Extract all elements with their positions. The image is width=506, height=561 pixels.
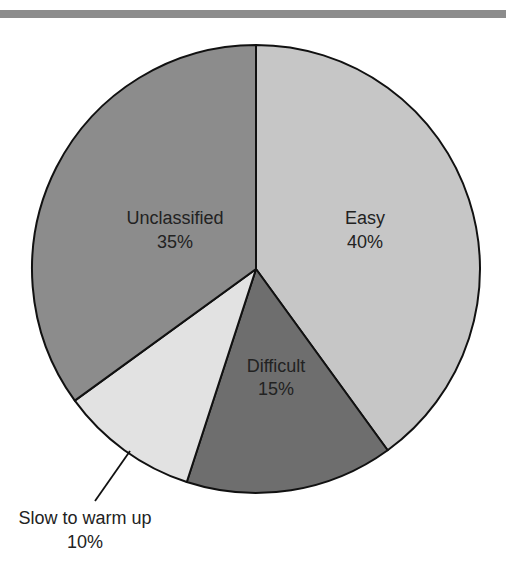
- slice-value-slow-to-warm-up: 10%: [67, 532, 103, 552]
- slice-value-unclassified: 35%: [157, 232, 193, 252]
- pie-chart: Unclassified 35% Easy 40% Difficult 15% …: [0, 0, 506, 561]
- slice-value-easy: 40%: [347, 232, 383, 252]
- slice-label-slow-to-warm-up: Slow to warm up: [18, 508, 151, 528]
- leader-line-slow-to-warm-up: [95, 451, 130, 501]
- pie-slices: [32, 45, 480, 493]
- slice-label-difficult: Difficult: [247, 356, 306, 376]
- slice-value-difficult: 15%: [258, 379, 294, 399]
- slice-label-unclassified: Unclassified: [126, 208, 223, 228]
- slice-label-easy: Easy: [345, 208, 385, 228]
